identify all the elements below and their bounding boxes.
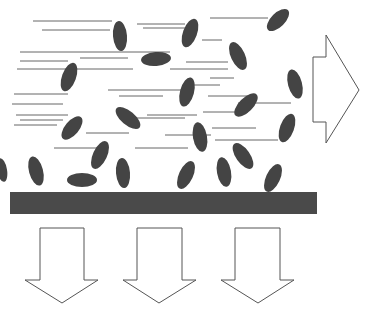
particle (173, 158, 198, 191)
particle (284, 68, 305, 101)
particle (191, 121, 210, 153)
particle (87, 138, 112, 171)
particle (229, 140, 258, 173)
particle (67, 173, 97, 187)
particle (140, 51, 171, 68)
particle (58, 113, 87, 143)
particle (25, 155, 46, 188)
particle (260, 161, 285, 194)
particles (0, 5, 306, 194)
particle (230, 89, 261, 120)
down-arrow-icon (123, 228, 196, 303)
diagram-canvas (0, 0, 369, 322)
particle (263, 5, 293, 35)
particle (215, 156, 234, 188)
streak-lines (12, 18, 291, 148)
particle (57, 61, 80, 94)
flow-direction-arrow-icon (313, 35, 359, 143)
particle (275, 112, 298, 145)
particle (115, 157, 132, 188)
particle (176, 76, 197, 109)
particle (225, 39, 250, 72)
particle (0, 157, 9, 182)
deposition-surface (10, 192, 317, 214)
down-arrow-icon (25, 228, 98, 303)
particle (178, 17, 201, 50)
deposition-diagram (0, 0, 369, 322)
deposition-flux-arrows (25, 228, 294, 303)
particle (112, 20, 129, 51)
down-arrow-icon (221, 228, 294, 303)
